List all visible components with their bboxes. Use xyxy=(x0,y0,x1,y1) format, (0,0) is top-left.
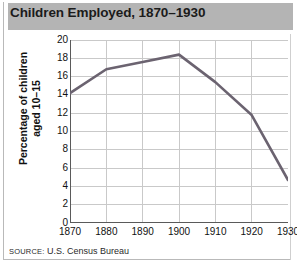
source-prefix: SOURCE: xyxy=(9,247,45,256)
y-axis-tick-label: 4 xyxy=(42,180,68,191)
page-title: Children Employed, 1870–1930 xyxy=(10,5,205,20)
y-axis-tick-label: 16 xyxy=(42,70,68,81)
x-axis-tick-label: 1880 xyxy=(86,226,126,237)
frame-left-border xyxy=(3,2,4,260)
y-axis-tick-label: 6 xyxy=(42,162,68,173)
plot-area xyxy=(70,40,288,223)
y-axis-tick-label: 20 xyxy=(42,34,68,45)
x-axis-tick-label: 1900 xyxy=(159,226,199,237)
source-note: SOURCE: U.S. Census Bureau xyxy=(9,246,129,256)
y-axis-tick-label: 2 xyxy=(42,198,68,209)
x-axis-tick-label: 1870 xyxy=(50,226,90,237)
grid-lines xyxy=(70,40,288,223)
y-axis-tick-label: 10 xyxy=(42,125,68,136)
y-axis-tick-label: 14 xyxy=(42,88,68,99)
y-axis-tick-label: 8 xyxy=(42,143,68,154)
line-chart-svg xyxy=(70,40,288,223)
x-axis-tick-label: 1930 xyxy=(268,226,297,237)
frame-bottom-border xyxy=(3,259,291,260)
y-axis-tick-label: 18 xyxy=(42,52,68,63)
x-axis-tick-labels: 1870188018901900191019201930 xyxy=(70,226,288,242)
y-axis-tick-labels: 20181614121086420 xyxy=(38,40,68,223)
chart-figure: Children Employed, 1870–1930 Percentage … xyxy=(0,0,297,266)
x-axis-tick-label: 1910 xyxy=(195,226,235,237)
source-text: U.S. Census Bureau xyxy=(45,246,130,256)
x-axis-tick-label: 1920 xyxy=(232,226,272,237)
x-axis-tick-label: 1890 xyxy=(123,226,163,237)
y-axis-tick-label: 12 xyxy=(42,107,68,118)
